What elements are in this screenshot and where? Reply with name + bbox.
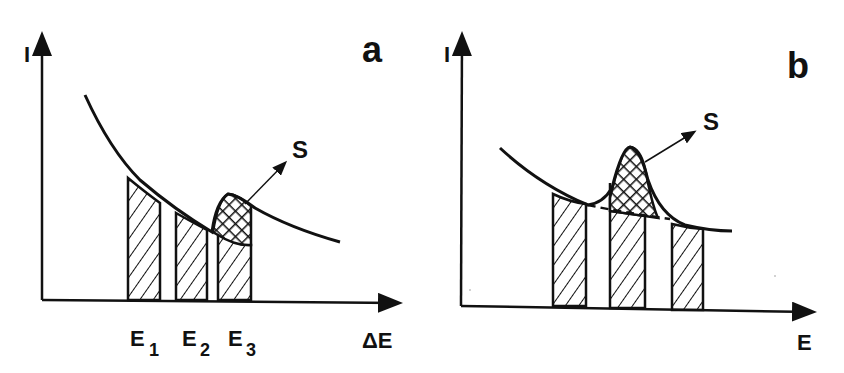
y-axis-label: I bbox=[444, 42, 450, 67]
peak-label: S bbox=[292, 136, 308, 163]
peak-label: S bbox=[703, 108, 719, 135]
x-axis bbox=[42, 300, 398, 303]
panel-b: I b S E bbox=[444, 36, 812, 355]
x-axis-label: ΔE bbox=[362, 328, 393, 353]
panel-label: a bbox=[362, 29, 383, 70]
y-axis-label: I bbox=[24, 42, 30, 67]
window-label-e3: E 3 bbox=[228, 326, 256, 360]
scan-speck bbox=[469, 289, 471, 291]
signal-pointer-arrow bbox=[645, 132, 694, 162]
window-subscript: 2 bbox=[200, 340, 210, 360]
window-1-bar bbox=[553, 194, 586, 306]
panel-label: b bbox=[787, 45, 809, 86]
y-axis bbox=[461, 36, 462, 306]
window-label-e1: E 1 bbox=[130, 326, 159, 360]
window-e3-bar bbox=[213, 194, 251, 300]
background-curve bbox=[85, 95, 340, 242]
panel-a: I a S ΔE E 1 E 2 E 3 bbox=[24, 29, 398, 360]
scan-speck bbox=[774, 275, 776, 277]
window-name: E bbox=[228, 326, 243, 351]
window-subscript: 1 bbox=[149, 340, 159, 360]
window-name: E bbox=[130, 326, 145, 351]
window-3-bar bbox=[672, 224, 703, 310]
window-label-e2: E 2 bbox=[182, 326, 210, 360]
window-subscript: 3 bbox=[246, 340, 256, 360]
window-e1-bar bbox=[128, 178, 160, 300]
figure-canvas: I a S ΔE E 1 E 2 E 3 bbox=[0, 0, 844, 373]
window-name: E bbox=[182, 326, 197, 351]
x-axis-label: E bbox=[797, 330, 812, 355]
signal-pointer-arrow bbox=[245, 163, 285, 204]
